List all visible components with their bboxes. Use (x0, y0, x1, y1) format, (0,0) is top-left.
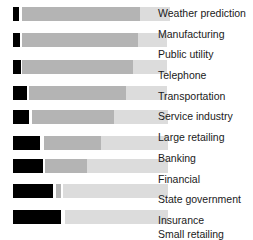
bar-segment-segment-b (44, 136, 101, 150)
category-label: Financial (158, 173, 253, 185)
bar-segment-segment-c (87, 159, 168, 173)
bar-segment-segment-a (13, 7, 20, 21)
bar-row (0, 210, 155, 224)
bar-segment-segment-b (22, 7, 141, 21)
bar-segment-segment-b (29, 86, 126, 100)
bar-row (0, 7, 155, 21)
category-label: Telephone (158, 69, 253, 81)
bar-segment-segment-c (63, 184, 168, 198)
bar-segment-segment-b (22, 60, 133, 74)
bar-segment-segment-a (13, 210, 61, 224)
category-label: Small retailing (158, 228, 253, 240)
bar-segment-segment-a (13, 159, 43, 173)
category-label: Public utility (158, 48, 253, 60)
category-label: Transportation (158, 90, 253, 102)
bar-segment-segment-b (32, 110, 114, 124)
bar-segment-segment-c (65, 210, 168, 224)
bar-row (0, 33, 155, 47)
bar-segment-segment-a (13, 184, 54, 198)
category-label: Weather prediction (158, 7, 253, 19)
bar-segment-segment-a (13, 60, 21, 74)
bar-segment-segment-a (13, 33, 20, 47)
category-label-column: Weather predictionManufacturingPublic ut… (158, 0, 253, 240)
category-label: Banking (158, 152, 253, 164)
bar-segment-segment-a (13, 136, 40, 150)
bar-segment-segment-b (56, 184, 60, 198)
bar-row (0, 184, 155, 198)
category-label: Insurance (158, 214, 253, 226)
bar-row (0, 86, 155, 100)
bar-segment-segment-a (13, 110, 30, 124)
category-label: Manufacturing (158, 28, 253, 40)
bar-row (0, 136, 155, 150)
bar-row (0, 159, 155, 173)
bar-segment-segment-a (13, 86, 27, 100)
category-label: State government (158, 193, 253, 205)
bar-segment-segment-b (45, 159, 87, 173)
bar-segment-segment-b (22, 33, 138, 47)
category-label: Large retailing (158, 131, 253, 143)
stacked-bar-chart: Weather predictionManufacturingPublic ut… (0, 0, 253, 240)
bar-row (0, 60, 155, 74)
category-label: Service industry (158, 110, 253, 122)
bar-row (0, 110, 155, 124)
chart-plot-area (0, 0, 155, 240)
